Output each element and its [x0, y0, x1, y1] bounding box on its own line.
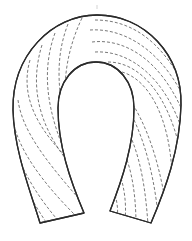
horseshoe-diagram — [0, 0, 192, 241]
diagram-canvas — [0, 0, 192, 241]
horseshoe-outline — [13, 15, 181, 223]
